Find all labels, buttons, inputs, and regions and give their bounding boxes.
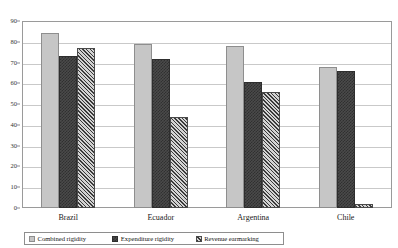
bar-chile-series1	[337, 71, 355, 208]
legend-label-0: Combined rigidity	[38, 235, 87, 242]
bar-argentina-series0	[226, 46, 244, 208]
chart-legend: Combined rigidityExpenditure rigidityRev…	[24, 232, 284, 245]
y-axis-tick-mark	[17, 104, 20, 105]
y-axis-tick-mark	[17, 41, 20, 42]
bar-brazil-series0	[41, 33, 59, 208]
bar-brazil-series1	[59, 56, 77, 208]
bar-group-argentina	[207, 21, 300, 208]
chart-title	[0, 0, 398, 1]
legend-swatch-combined-rigidity	[29, 236, 35, 242]
bar-brazil-series2	[77, 48, 95, 208]
bar-ecuador-series2	[170, 117, 188, 208]
x-axis-tick-label-argentina: Argentina	[207, 211, 300, 227]
x-axis-tick-label-ecuador: Ecuador	[115, 211, 208, 227]
y-axis-tick-mark	[17, 166, 20, 167]
legend-swatch-expenditure-rigidity	[112, 236, 118, 242]
legend-item-0: Combined rigidity	[29, 235, 112, 242]
bar-ecuador-series0	[134, 44, 152, 208]
bar-group-chile	[300, 21, 393, 208]
y-axis-tick-mark	[17, 145, 20, 146]
x-axis-tick-label-chile: Chile	[300, 211, 393, 227]
y-axis-tick-mark	[17, 124, 20, 125]
bar-chile-series2	[355, 204, 373, 208]
bar-chart-figure: 9080706050403020100 BrazilEcuadorArgenti…	[0, 0, 398, 248]
bar-group-brazil	[22, 21, 115, 208]
legend-label-1: Expenditure rigidity	[121, 235, 174, 242]
x-axis: BrazilEcuadorArgentinaChile	[22, 211, 392, 227]
y-axis-tick-mark	[17, 62, 20, 63]
bar-group-ecuador	[115, 21, 208, 208]
legend-label-2: Revenue earmarking	[204, 235, 259, 242]
legend-swatch-revenue-earmarking	[196, 236, 202, 242]
y-axis-tick-mark	[17, 83, 20, 84]
y-axis-tick-mark	[17, 187, 20, 188]
y-axis: 9080706050403020100	[0, 21, 20, 208]
bar-chile-series0	[319, 67, 337, 208]
bar-argentina-series2	[262, 92, 280, 208]
bar-argentina-series1	[244, 82, 262, 208]
bars-layer	[22, 21, 392, 208]
bar-ecuador-series1	[152, 59, 170, 208]
legend-item-1: Expenditure rigidity	[112, 235, 195, 242]
x-axis-tick-label-brazil: Brazil	[22, 211, 115, 227]
legend-item-2: Revenue earmarking	[196, 235, 279, 242]
y-axis-tick-mark	[17, 208, 20, 209]
y-axis-tick-mark	[17, 21, 20, 22]
